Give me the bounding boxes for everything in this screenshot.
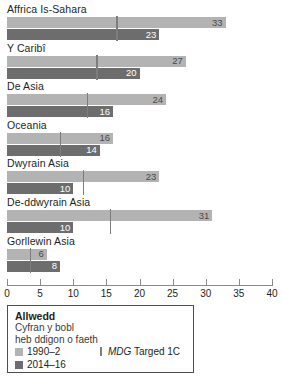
x-axis: 0510152025303540 [0,279,283,305]
bar-value-label: 23 [146,172,157,182]
axis-tick [73,279,74,286]
axis-tick [140,279,141,286]
legend-label-mdg-rest: Targed 1C [131,346,180,357]
mdg-target-line [110,209,111,234]
bar-value-label: 24 [152,95,163,105]
bar-pair: 3323 [0,17,283,41]
legend-label-2014: 2014–16 [27,359,66,370]
legend-title: Allwedd [15,310,187,322]
axis-tick [40,279,41,286]
legend-item-1990: 1990–2 MDG Targed 1C [15,345,187,358]
bar-2014: 23 [7,29,159,40]
axis-tick-label: 10 [68,288,79,299]
mdg-target-line [83,170,84,195]
axis-tick [239,279,240,286]
bar-value-label: 14 [86,145,97,155]
bar-value-label: 31 [199,211,210,221]
bar-1990: 6 [7,249,47,260]
axis-tick-label: 20 [134,288,145,299]
bar-value-label: 10 [60,223,71,233]
axis-tick [106,279,107,286]
bar-2014: 14 [7,145,100,156]
bar-value-label: 20 [126,68,137,78]
legend-item-mdg-target: MDG Targed 1C [100,345,180,358]
axis-tick-label: 5 [37,288,43,299]
category-label: Gorllewin Asia [7,236,75,247]
bar-value-label: 6 [38,249,43,259]
axis-tick-label: 30 [200,288,211,299]
bar-pair: 3110 [0,210,283,234]
category-label: De Asia [7,81,44,92]
axis-tick-label: 15 [101,288,112,299]
legend-subtitle-line2: heb ddigon o faeth [15,334,187,346]
legend-label-mdg-target: MDG Targed 1C [108,346,180,357]
mdg-target-line [96,55,97,80]
bar-value-label: 27 [172,56,183,66]
axis-tick-label: 40 [266,288,277,299]
axis-tick [173,279,174,286]
bar-2014: 20 [7,68,140,79]
category-label: Affrica Is-Sahara [7,4,87,15]
axis-tick [7,279,8,286]
mdg-target-line [87,93,88,118]
bar-pair: 1614 [0,133,283,157]
axis-tick [206,279,207,286]
legend: Allwedd Cyfran y bobl heb ddigon o faeth… [7,305,194,373]
category-label: Oceania [7,120,47,131]
axis-tick [272,279,273,286]
bar-value-label: 23 [146,30,157,40]
legend-label-1990: 1990–2 [27,346,60,357]
mdg-target-line [30,248,31,273]
bar-2014: 8 [7,261,60,272]
bar-value-label: 16 [99,107,110,117]
bar-value-label: 33 [212,18,223,28]
bar-2014: 10 [7,222,73,233]
bar-value-label: 10 [60,184,71,194]
category-label: Dwyrain Asia [7,158,69,169]
axis-tick-label: 35 [233,288,244,299]
bar-2014: 10 [7,183,73,194]
category-label: De-ddwyrain Asia [7,197,90,208]
bar-pair: 2310 [0,171,283,195]
mdg-target-line [60,132,61,157]
axis-tick-label: 0 [4,288,10,299]
legend-subtitle-line1: Cyfran y bobl [15,322,187,334]
bar-value-label: 16 [99,133,110,143]
bar-pair: 2416 [0,94,283,118]
bar-pair: 68 [0,249,283,273]
legend-item-2014: 2014–16 [15,358,187,371]
nutrition-bar-chart: Affrica Is-Sahara3323Y Caribî2720De Asia… [0,0,283,380]
legend-label-mdg-abbr: MDG [108,346,131,357]
bar-2014: 16 [7,106,113,117]
bar-value-label: 8 [52,261,57,271]
legend-swatch-1990-icon [15,348,23,356]
bar-pair: 2720 [0,56,283,80]
legend-swatch-2014-icon [15,361,23,369]
category-label: Y Caribî [7,43,46,54]
legend-target-line-icon [100,347,102,356]
plot-area: Affrica Is-Sahara3323Y Caribî2720De Asia… [0,0,283,280]
axis-tick-label: 25 [167,288,178,299]
mdg-target-line [116,16,117,41]
